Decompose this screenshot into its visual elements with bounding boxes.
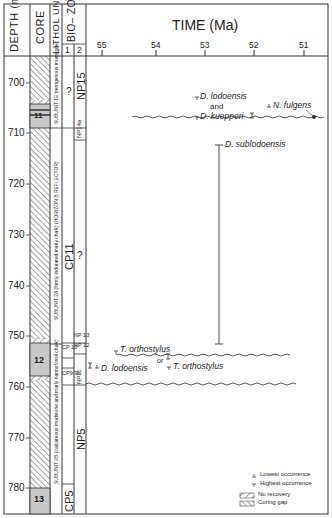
- time-tick: 52: [249, 40, 258, 50]
- legend-coring-gap: Coring gap: [258, 499, 287, 505]
- zone-cp9b: CP9 9b: [62, 370, 74, 376]
- stratigraphic-figure: DEPTH (m) CORE LITHOL UNITS BIO– ZONES 1…: [0, 0, 332, 518]
- zone-np13: NP 13: [74, 332, 86, 338]
- core-label-13: 13: [34, 494, 44, 504]
- species-d-lodoensis-top: D. lodoensis: [200, 91, 247, 101]
- zone-np5: NP5: [75, 429, 87, 450]
- biozones-header: BIO– ZONES: [66, 0, 77, 42]
- lithol-unit-1e: SUBUNIT 1E (terrigenous mudstone): [53, 42, 59, 124]
- core-label-11: 11: [34, 111, 42, 120]
- species-and: and: [210, 102, 223, 111]
- depth-tick: 760: [8, 381, 25, 392]
- biozone-col1-label: 1: [65, 45, 70, 55]
- depth-tick: 740: [8, 280, 25, 291]
- depth-tick: 770: [8, 432, 25, 443]
- zone-question-1: ?: [66, 86, 72, 97]
- depth-header: DEPTH (m): [8, 0, 20, 52]
- time-tick: 53: [200, 40, 209, 50]
- legend-highest: Highest occurrence: [260, 480, 312, 486]
- legend-no-recovery: No recovery: [258, 491, 290, 497]
- zone-cp10: CP 10: [62, 344, 74, 350]
- biozone-col2-label: 2: [77, 45, 82, 55]
- time-tick: 51: [299, 40, 308, 50]
- core-label-12: 12: [34, 355, 44, 365]
- species-n-fulgens: N. fulgens: [273, 100, 311, 110]
- depth-tick: 700: [8, 77, 25, 88]
- depth-tick: 780: [8, 482, 25, 493]
- zone-np14a: NP14a: [76, 120, 82, 138]
- zone-np12: NP 12: [74, 342, 86, 348]
- depth-tick: 720: [8, 178, 25, 189]
- species-t-orthostylus-1: T. orthostylus: [120, 344, 170, 354]
- lithol-unit-2a: SUBUNIT 2A (firmly indurated marly chalk…: [53, 161, 59, 320]
- depth-tick: 710: [8, 127, 25, 138]
- zone-cp5: CP5: [63, 491, 75, 512]
- depth-tick: 750: [8, 330, 25, 341]
- time-tick: 55: [97, 40, 106, 50]
- depth-tick: 730: [8, 229, 25, 240]
- time-tick: 54: [151, 40, 160, 50]
- species-d-kuepperi: D. kuepperi: [200, 111, 243, 121]
- chart-graphics: [0, 0, 332, 518]
- legend-lowest: Lowest occurrence: [260, 471, 310, 477]
- zone-np15: NP15: [75, 72, 87, 100]
- time-axis-title: TIME (Ma): [172, 17, 238, 33]
- species-d-lodoensis-bottom: D. lodoensis: [101, 363, 148, 373]
- lithol-unit-2b: SUBUNIT 2B (calcareous mudstone and marl…: [53, 339, 59, 484]
- zone-np11: NP11: [76, 369, 82, 384]
- species-or: or: [157, 357, 163, 364]
- zone-question-2: ?: [77, 250, 83, 261]
- core-header: CORE: [34, 10, 46, 44]
- species-t-orthostylus-2: T. orthostylus: [173, 361, 223, 371]
- zone-cp11: CP11: [63, 243, 75, 270]
- species-d-sublodoensis: D. sublodoensis: [225, 139, 285, 149]
